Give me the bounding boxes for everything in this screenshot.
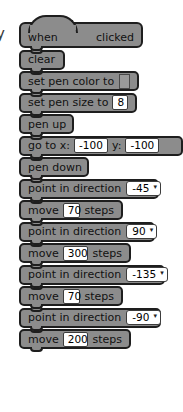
block-move-steps-1[interactable]: move 70 steps <box>19 200 123 220</box>
pen-size-input[interactable]: 8 <box>112 95 128 110</box>
block-label-set-pen-color-to: set pen color to <box>28 76 114 87</box>
pen-color-swatch[interactable] <box>119 74 130 89</box>
direction-dropdown-3[interactable]: -135 ▾ <box>126 267 167 282</box>
block-label-point-in-direction-4: point in direction <box>28 312 121 323</box>
block-label-steps-4: steps <box>92 334 122 345</box>
chevron-down-icon: ▾ <box>160 267 164 280</box>
move-steps-input-3[interactable]: 70 <box>63 289 81 304</box>
block-set-pen-color-to[interactable]: set pen color to <box>19 71 139 91</box>
move-steps-input-4[interactable]: 200 <box>63 332 89 347</box>
block-label-clear: clear <box>28 54 55 65</box>
block-pen-down[interactable]: pen down <box>19 157 89 177</box>
block-set-pen-size-to[interactable]: set pen size to 8 <box>19 93 137 113</box>
block-label-pen-down: pen down <box>28 162 82 173</box>
block-move-steps-3[interactable]: move 70 steps <box>19 286 123 306</box>
block-label-clicked: clicked <box>96 32 134 43</box>
block-label-steps-2: steps <box>92 248 122 259</box>
direction-dropdown-1[interactable]: -45 ▾ <box>126 181 161 196</box>
direction-value-2: 90 <box>132 225 145 238</box>
block-label-point-in-direction-2: point in direction <box>28 226 121 237</box>
direction-value-1: -45 <box>132 182 149 195</box>
block-label-pen-up: pen up <box>28 119 66 130</box>
block-point-in-direction-1[interactable]: point in direction -45 ▾ <box>19 179 159 199</box>
block-label-when: when <box>28 32 58 43</box>
block-label-point-in-direction-3: point in direction <box>28 269 121 280</box>
direction-dropdown-2[interactable]: 90 ▾ <box>126 224 157 239</box>
direction-value-4: -90 <box>132 311 149 324</box>
block-point-in-direction-3[interactable]: point in direction -135 ▾ <box>19 265 165 285</box>
move-steps-input-1[interactable]: 70 <box>63 203 81 218</box>
scratch-script-stack: when clicked clear set pen color to set … <box>19 22 183 349</box>
move-steps-input-2[interactable]: 300 <box>63 246 89 261</box>
chevron-down-icon: ▾ <box>150 224 154 237</box>
chevron-down-icon: ▾ <box>153 181 157 194</box>
block-label-steps-3: steps <box>84 291 114 302</box>
direction-value-3: -135 <box>132 268 156 281</box>
block-clear[interactable]: clear <box>19 50 65 70</box>
direction-dropdown-4[interactable]: -90 ▾ <box>126 310 161 325</box>
block-label-point-in-direction-1: point in direction <box>28 183 121 194</box>
block-move-steps-2[interactable]: move 300 steps <box>19 243 131 263</box>
block-label-move-3: move <box>28 291 59 302</box>
block-when-flag-clicked[interactable]: when clicked <box>19 22 143 48</box>
green-flag-icon <box>62 30 92 43</box>
block-label-steps-1: steps <box>84 205 114 216</box>
block-label-move-2: move <box>28 248 59 259</box>
block-move-steps-4[interactable]: move 200 steps <box>19 329 131 349</box>
block-label-go-to-y: y: <box>112 140 121 151</box>
block-label-go-to-x: go to x: <box>28 140 70 151</box>
go-to-x-input[interactable]: -100 <box>74 138 108 153</box>
cropped-edge-glyph: y <box>0 27 5 42</box>
block-pen-up[interactable]: pen up <box>19 114 74 134</box>
go-to-y-input[interactable]: -100 <box>125 138 159 153</box>
chevron-down-icon: ▾ <box>153 310 157 323</box>
block-point-in-direction-2[interactable]: point in direction 90 ▾ <box>19 222 155 242</box>
block-go-to-xy[interactable]: go to x: -100 y: -100 <box>19 136 183 156</box>
block-point-in-direction-4[interactable]: point in direction -90 ▾ <box>19 308 161 328</box>
block-label-move-1: move <box>28 205 59 216</box>
block-label-set-pen-size-to: set pen size to <box>28 97 108 108</box>
block-label-move-4: move <box>28 334 59 345</box>
